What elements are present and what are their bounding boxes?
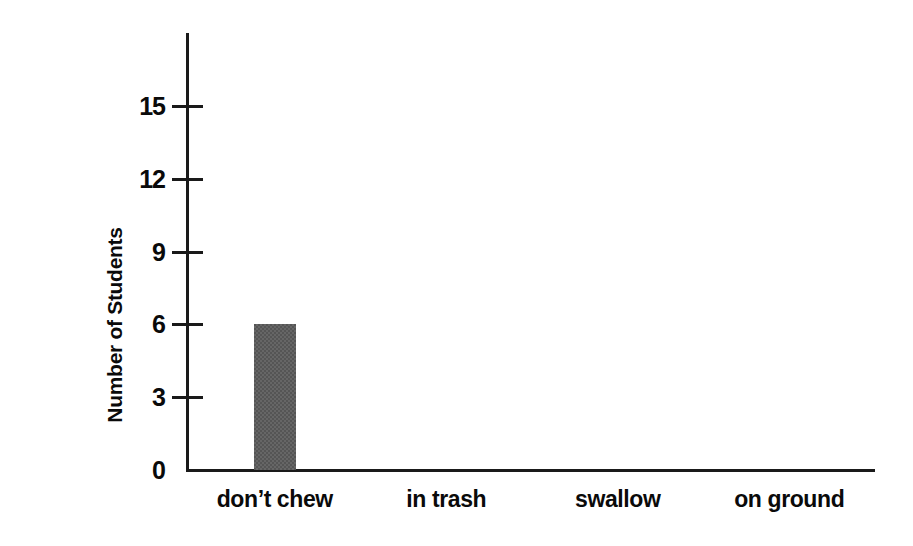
x-axis-label: don’t chew bbox=[189, 482, 361, 522]
x-axis-label: swallow bbox=[532, 482, 704, 522]
y-tick-label-3: 3 bbox=[108, 385, 165, 410]
y-tick-label-15: 15 bbox=[108, 93, 165, 118]
bar-slot bbox=[361, 33, 533, 470]
bar-slot bbox=[189, 33, 361, 470]
y-tick-label-0: 0 bbox=[108, 458, 165, 483]
y-tick-label-6: 6 bbox=[108, 312, 165, 337]
x-axis-label: on ground bbox=[704, 482, 876, 522]
y-tick-mark-12 bbox=[172, 178, 203, 181]
y-tick-mark-3 bbox=[172, 396, 203, 399]
bar-slot bbox=[704, 33, 876, 470]
plot-area bbox=[189, 33, 875, 470]
y-tick-mark-6 bbox=[172, 323, 203, 326]
y-tick-mark-9 bbox=[172, 251, 203, 254]
y-tick-mark-15 bbox=[172, 105, 203, 108]
bar-slot bbox=[532, 33, 704, 470]
y-tick-label-9: 9 bbox=[108, 239, 165, 264]
x-axis-label: in trash bbox=[361, 482, 533, 522]
bar-chart: Number of Students 03691215 don’t chewin… bbox=[0, 0, 913, 546]
y-axis-tick-labels: 03691215 bbox=[108, 0, 165, 546]
y-tick-label-12: 12 bbox=[108, 166, 165, 191]
bar bbox=[254, 324, 296, 470]
x-axis-category-labels: don’t chewin trashswallowon ground bbox=[189, 482, 875, 522]
